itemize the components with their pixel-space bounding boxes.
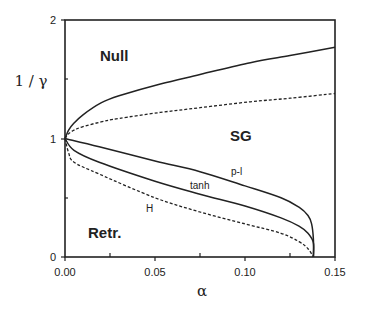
region-label-null: Null (100, 47, 128, 64)
x-tick-0: 0.00 (54, 266, 75, 278)
y-axis-title: 1 / γ (14, 72, 47, 90)
curve-label-h: H (146, 203, 153, 214)
x-axis-title: α (197, 282, 207, 300)
x-tick-3: 0.15 (324, 266, 345, 278)
y-tick-0: 0 (50, 251, 56, 263)
y-tick-1: 1 (50, 133, 56, 145)
phase-diagram-chart: 0.00 0.05 0.10 0.15 0 1 2 1 / γ α Null S… (0, 0, 367, 312)
x-tick-2: 0.10 (234, 266, 255, 278)
curve-label-pl: p-l (231, 166, 242, 177)
curve-label-tanh: tanh (190, 180, 209, 191)
region-label-retr: Retr. (88, 224, 121, 241)
y-tick-2: 2 (50, 14, 56, 26)
x-tick-1: 0.05 (144, 266, 165, 278)
region-label-sg: SG (230, 127, 252, 144)
